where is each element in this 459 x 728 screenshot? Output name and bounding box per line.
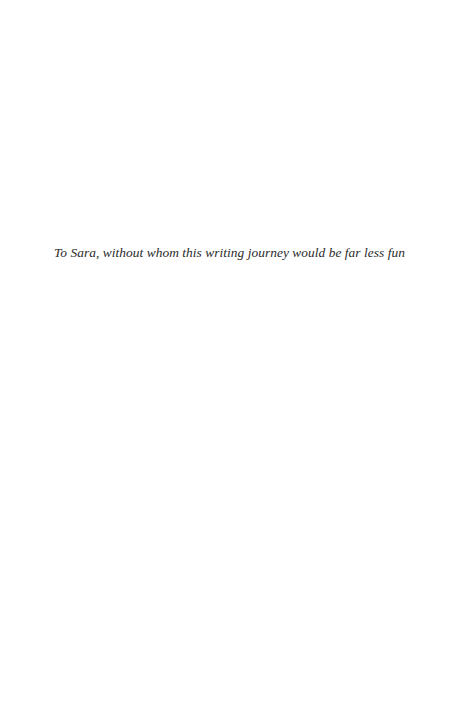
book-page: To Sara, without whom this writing journ… <box>0 0 459 728</box>
dedication-text: To Sara, without whom this writing journ… <box>0 244 459 262</box>
